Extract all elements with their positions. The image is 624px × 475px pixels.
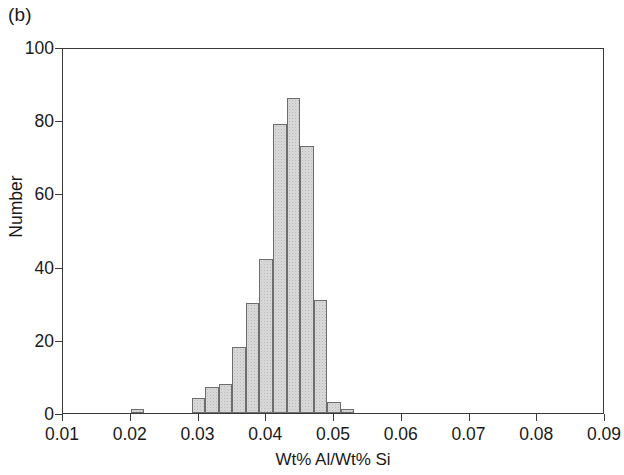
histogram-bar (327, 402, 341, 413)
y-axis-tick-label: 60 (0, 184, 54, 205)
y-axis-tick (55, 48, 62, 49)
x-axis-tick (333, 414, 334, 421)
histogram-bar (287, 98, 301, 413)
x-axis-tick-label: 0.09 (564, 424, 624, 445)
panel-label: (b) (8, 4, 32, 26)
y-axis-tick-label: 100 (0, 38, 54, 59)
y-axis-tick (55, 121, 62, 122)
plot-area (62, 48, 604, 414)
x-axis-tick (536, 414, 537, 421)
histogram-bars (63, 49, 603, 413)
y-axis-tick (55, 194, 62, 195)
histogram-figure: (b) Number 020406080100 0.010.020.030.04… (0, 0, 624, 475)
histogram-bar (341, 409, 355, 413)
x-axis-tick (130, 414, 131, 421)
histogram-bar (300, 146, 314, 413)
histogram-bar (205, 387, 219, 413)
histogram-bar (192, 398, 206, 413)
x-axis-tick (604, 414, 605, 421)
x-axis-tick (401, 414, 402, 421)
y-axis-tick-label: 40 (0, 257, 54, 278)
x-axis-tick (265, 414, 266, 421)
y-axis-tick (55, 268, 62, 269)
histogram-bar (259, 259, 273, 413)
histogram-bar (131, 409, 145, 413)
x-axis-tick (198, 414, 199, 421)
histogram-bar (219, 384, 233, 413)
y-axis-tick-label: 0 (0, 404, 54, 425)
x-axis-title: Wt% Al/Wt% Si (62, 450, 604, 470)
histogram-bar (232, 347, 246, 413)
y-axis-tick-label: 80 (0, 111, 54, 132)
x-axis-tick (62, 414, 63, 421)
histogram-bar (246, 303, 260, 413)
x-axis-tick (469, 414, 470, 421)
y-axis-tick (55, 414, 62, 415)
y-axis-tick-label: 20 (0, 330, 54, 351)
y-axis-tick (55, 341, 62, 342)
histogram-bar (314, 300, 328, 413)
histogram-bar (273, 124, 287, 413)
